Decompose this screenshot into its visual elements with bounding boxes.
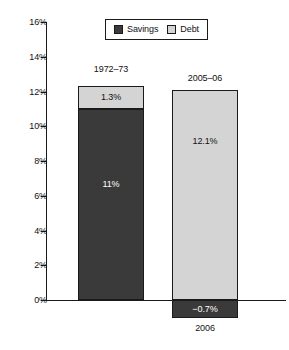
bar-segment-savings-2005-06[interactable]: −0.7%	[172, 300, 238, 318]
bar-segment-savings-1972-73[interactable]: 11%	[78, 109, 144, 300]
y-tick-label: 8%	[13, 157, 47, 166]
y-tick-label: 0%	[13, 296, 47, 305]
legend-label-debt: Debt	[180, 25, 199, 34]
y-tick-label: 4%	[13, 227, 47, 236]
bar-segment-debt-1972-73[interactable]: 1.3%	[78, 86, 144, 109]
chart-legend: Savings Debt	[105, 19, 208, 40]
bar-caption-top-1972-73: 1972–73	[78, 65, 144, 74]
bar-segment-label: 11%	[102, 180, 119, 189]
y-tick-label: 6%	[13, 192, 47, 201]
bar-segment-debt-2005-06[interactable]: 12.1%	[172, 90, 238, 300]
legend-entry-savings[interactable]: Savings	[114, 25, 158, 34]
y-tick-label: 2%	[13, 261, 47, 270]
legend-swatch-savings-icon	[114, 25, 123, 34]
bar-segment-label: 12.1%	[192, 137, 217, 146]
zero-baseline	[46, 300, 286, 301]
y-tick-label: 12%	[13, 88, 47, 97]
legend-label-savings: Savings	[127, 25, 158, 34]
y-tick-label: 14%	[13, 53, 47, 62]
legend-entry-debt[interactable]: Debt	[167, 25, 199, 34]
bar-segment-label: −0.7%	[192, 305, 217, 314]
y-tick-label: 16%	[13, 18, 47, 27]
bar-segment-label: 1.3%	[101, 93, 121, 102]
bar-caption-top-2005-06: 2005–06	[172, 74, 238, 83]
bar-caption-bottom-2006: 2006	[172, 324, 238, 333]
legend-swatch-debt-icon	[167, 25, 176, 34]
chart-container: 16% 14% 12% 10% 8% 6% 4% 2% 0% 1972–73 1…	[0, 0, 289, 350]
y-tick-label: 10%	[13, 122, 47, 131]
